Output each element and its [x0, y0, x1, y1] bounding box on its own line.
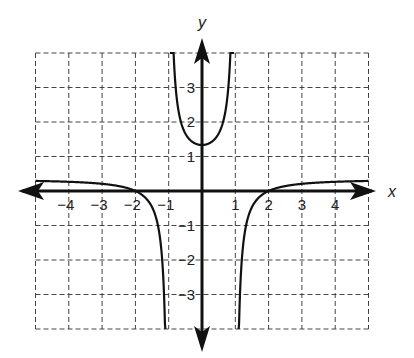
function-graph: −4−3−2−11234321−1−2−3 x y: [0, 0, 414, 358]
x-tick-label: −3: [91, 196, 108, 213]
y-tick-label: 3: [187, 79, 195, 96]
y-tick-label: −2: [178, 251, 195, 268]
y-tick-label: −1: [178, 217, 195, 234]
x-tick-label: 2: [264, 196, 272, 213]
x-tick-label: −1: [157, 196, 174, 213]
x-tick-label: −2: [124, 196, 141, 213]
y-tick-label: 2: [187, 113, 195, 130]
x-tick-label: 3: [298, 196, 306, 213]
x-tick-label: 1: [231, 196, 239, 213]
x-tick-label: −4: [57, 196, 74, 213]
x-axis-label: x: [387, 183, 397, 200]
x-tick-label: 4: [331, 196, 339, 213]
y-tick-label: −3: [178, 286, 195, 303]
y-tick-label: 1: [187, 148, 195, 165]
y-axis-label: y: [197, 14, 207, 31]
axes: [18, 38, 376, 352]
